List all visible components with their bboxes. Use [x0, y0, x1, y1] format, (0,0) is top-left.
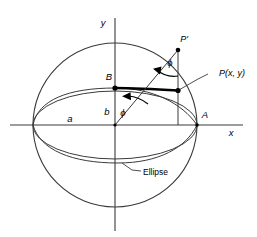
- point-marker-origin: [113, 123, 116, 126]
- semi-minor-label-b: b: [104, 106, 109, 117]
- point-marker-Pprime: [176, 48, 181, 53]
- ellipse-sphere-diagram: y x A B P' P(x, y) a b ϕ ϕ Ellipse: [0, 0, 257, 237]
- phi-Pprime-arrowhead: [153, 67, 162, 75]
- semi-major-label-a: a: [67, 113, 72, 124]
- phi-origin-arrowhead: [122, 92, 131, 100]
- point-label-B: B: [106, 71, 113, 82]
- leader-line-ellipse-label: [122, 163, 141, 171]
- diagram-canvas: y x A B P' P(x, y) a b ϕ ϕ Ellipse: [0, 0, 257, 237]
- point-marker-A: [195, 123, 199, 127]
- y-axis-label: y: [100, 17, 107, 28]
- point-label-A: A: [201, 109, 208, 120]
- ellipse-annotation-label: Ellipse: [143, 167, 168, 177]
- axes-group: [10, 18, 243, 231]
- highlighted-arc-B-to-P: [115, 88, 178, 91]
- phi-label-origin: ϕ: [120, 107, 125, 118]
- point-label-P: P(x, y): [219, 68, 245, 78]
- leader-line-P-label: [178, 74, 208, 91]
- point-marker-B: [112, 85, 117, 90]
- point-label-P-prime: P': [180, 34, 188, 44]
- x-axis-label: x: [228, 127, 235, 138]
- point-marker-P: [175, 88, 180, 93]
- phi-angle-origin-group: [122, 92, 148, 104]
- phi-label-Pprime: ϕ: [167, 57, 172, 68]
